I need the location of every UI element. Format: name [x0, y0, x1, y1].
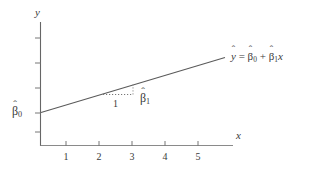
x-tick-label: 3	[125, 152, 139, 162]
beta0-subscript: 0	[253, 55, 257, 64]
regression-equation-label: ˆy = ˆβ0 + ˆβ1x	[231, 51, 283, 62]
intercept-beta0-label: ˆβ0	[12, 105, 22, 117]
x-tick-label: 5	[191, 152, 205, 162]
hat-accent-icon: ˆ	[269, 45, 275, 55]
beta1-subscript: 1	[274, 55, 278, 64]
x-variable-glyph: x	[278, 50, 283, 62]
beta1-subscript: 1	[146, 97, 150, 106]
plot-canvas	[0, 0, 312, 177]
hat-accent-icon: ˆ	[231, 45, 236, 55]
x-tick-label: 1	[59, 152, 73, 162]
y-axis-ticks	[35, 38, 41, 132]
yhat-symbol: ˆy	[231, 51, 236, 62]
x-axis-label: x	[236, 130, 241, 141]
slope-run-label: 1	[113, 99, 118, 109]
hat-accent-icon: ˆ	[248, 45, 254, 55]
x-tick-label: 4	[158, 152, 172, 162]
plus-sign: +	[260, 50, 266, 62]
beta0-subscript: 0	[18, 110, 22, 119]
x-tick-label: 2	[92, 152, 106, 162]
equals-sign: =	[239, 50, 245, 62]
hat-accent-icon: ˆ	[12, 99, 18, 110]
slope-beta1-label: ˆβ1	[140, 92, 150, 104]
y-axis-label: y	[35, 7, 40, 18]
regression-line-figure: y x 1 2 3 4 5 ˆβ0 1 ˆβ1 ˆy = ˆβ0 + ˆβ1x	[0, 0, 312, 177]
hat-accent-icon: ˆ	[140, 86, 146, 97]
